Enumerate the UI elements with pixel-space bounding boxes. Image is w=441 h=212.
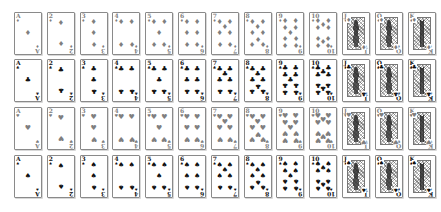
card-k-of-clubs[interactable]: K♣K♣♣♣ [408,59,436,102]
card-9-of-spades[interactable]: 9♠9♠♠♠♠♠♠♠♠♠♠ [276,155,304,198]
card-8-of-clubs[interactable]: 8♣8♣♣♣♣♣♣♣♣♣ [244,59,272,102]
card-9-of-diamonds[interactable]: 9♦9♦♦♦♦♦♦♦♦♦♦ [276,12,304,55]
card-3-of-spades[interactable]: 3♠3♠♠♠♠ [80,155,108,198]
card-a-of-hearts[interactable]: A♥A♥♥ [14,107,42,150]
clubs-pip-icon: ♣ [226,87,234,94]
diamonds-pip-icon: ♦ [183,40,191,47]
card-5-of-hearts[interactable]: 5♥5♥♥♥♥♥♥ [145,107,173,150]
card-8-of-spades[interactable]: 8♠8♠♠♠♠♠♠♠♠♠ [244,155,272,198]
card-7-of-diamonds[interactable]: 7♦7♦♦♦♦♦♦♦♦ [211,12,239,55]
card-8-of-diamonds[interactable]: 8♦8♦♦♦♦♦♦♦♦♦ [244,12,272,55]
card-j-of-clubs[interactable]: J♣J♣♣♣ [342,59,370,102]
card-2-of-spades[interactable]: 2♠2♠♠♠ [47,155,75,198]
court-figure [416,67,428,94]
card-10-of-hearts[interactable]: 10♥10♥♥♥♥♥♥♥♥♥♥♥ [309,107,337,150]
spades-pip-icon: ♠ [160,162,168,169]
card-2-of-clubs[interactable]: 2♣2♣♣♣ [47,59,75,102]
card-6-of-hearts[interactable]: 6♥6♥♥♥♥♥♥♥ [178,107,206,150]
card-6-of-clubs[interactable]: 6♣6♣♣♣♣♣♣♣ [178,59,206,102]
spades-pip-icon: ♠ [160,183,168,190]
card-3-of-diamonds[interactable]: 3♦3♦♦♦♦ [80,12,108,55]
rank-label: 7 [233,95,237,102]
diamonds-pip-icon: ♦ [117,40,125,47]
card-3-of-clubs[interactable]: 3♣3♣♣♣♣ [80,59,108,102]
card-7-of-hearts[interactable]: 7♥7♥♥♥♥♥♥♥♥ [211,107,239,150]
card-a-of-clubs[interactable]: A♣A♣♣ [14,59,42,102]
card-index-top: 2♦ [49,13,53,23]
card-10-of-diamonds[interactable]: 10♦10♦♦♦♦♦♦♦♦♦♦♦ [309,12,337,55]
card-8-of-hearts[interactable]: 8♥8♥♥♥♥♥♥♥♥♥ [244,107,272,150]
card-k-of-hearts[interactable]: K♥K♥♥♥ [408,107,436,150]
rank-label: 3 [101,191,105,198]
card-k-of-spades[interactable]: K♠K♠♠♠ [408,155,436,198]
diamonds-pip-icon: ♦ [150,19,158,26]
card-2-of-diamonds[interactable]: 2♦2♦♦♦ [47,12,75,55]
card-5-of-spades[interactable]: 5♠5♠♠♠♠♠♠ [145,155,173,198]
clubs-pip-icon: ♣ [216,77,224,84]
court-figure [350,163,362,190]
hearts-pip-icon: ♥ [117,135,125,142]
rank-label: 7 [233,48,237,55]
card-a-of-diamonds[interactable]: A♦A♦♦ [14,12,42,55]
rank-label: 4 [134,48,138,55]
card-q-of-spades[interactable]: Q♠Q♠♠♠ [375,155,403,198]
card-j-of-spades[interactable]: J♠J♠♠♠ [342,155,370,198]
card-7-of-clubs[interactable]: 7♣7♣♣♣♣♣♣♣♣ [211,59,239,102]
card-k-of-diamonds[interactable]: K♦K♦♦♦ [408,12,436,55]
hearts-pip-icon: ♥ [292,129,300,136]
spades-pip-icon: ♠ [128,162,136,169]
card-index-bottom: A♣ [35,91,40,101]
clubs-icon: ♣ [412,64,417,70]
diamonds-pip-icon: ♦ [90,30,98,37]
court-figure [350,115,362,142]
card-5-of-diamonds[interactable]: 5♦5♦♦♦♦♦♦ [145,12,173,55]
card-index-top: 3♠ [82,156,86,166]
spades-pip-icon: ♠ [57,163,65,170]
card-3-of-hearts[interactable]: 3♥3♥♥♥♥ [80,107,108,150]
clubs-icon: ♣ [82,66,86,70]
hearts-pip-icon: ♥ [128,114,136,121]
card-9-of-clubs[interactable]: 9♣9♣♣♣♣♣♣♣♣♣♣ [276,59,304,102]
card-7-of-spades[interactable]: 7♠7♠♠♠♠♠♠♠♠ [211,155,239,198]
card-9-of-hearts[interactable]: 9♥9♥♥♥♥♥♥♥♥♥♥ [276,107,304,150]
card-10-of-clubs[interactable]: 10♣10♣♣♣♣♣♣♣♣♣♣♣ [309,59,337,102]
hearts-pip-icon: ♥ [117,114,125,121]
card-q-of-hearts[interactable]: Q♥Q♥♥♥ [375,107,403,150]
card-6-of-diamonds[interactable]: 6♦6♦♦♦♦♦♦♦ [178,12,206,55]
card-index-top: 3♣ [82,60,86,70]
card-4-of-hearts[interactable]: 4♥4♥♥♥♥♥ [112,107,140,150]
rank-label: A [35,143,40,150]
diamonds-pip-icon: ♦ [193,30,201,37]
card-10-of-spades[interactable]: 10♠10♠♠♠♠♠♠♠♠♠♠♠ [309,155,337,198]
spades-pip-icon: ♠ [292,177,300,184]
card-q-of-clubs[interactable]: Q♣Q♣♣♣ [375,59,403,102]
hearts-pip-icon: ♥ [160,135,168,142]
card-6-of-spades[interactable]: 6♠6♠♠♠♠♠♠♠ [178,155,206,198]
card-q-of-diamonds[interactable]: Q♦Q♦♦♦ [375,12,403,55]
card-4-of-spades[interactable]: 4♠4♠♠♠♠♠ [112,155,140,198]
hearts-pip-icon: ♥ [160,114,168,121]
clubs-pip-icon: ♣ [155,77,163,84]
hearts-pip-icon: ♥ [248,135,256,142]
spades-pip-icon: ♠ [193,162,201,169]
diamonds-pip-icon: ♦ [259,40,267,47]
card-j-of-hearts[interactable]: J♥J♥♥♥ [342,107,370,150]
hearts-pip-icon: ♥ [324,120,332,127]
diamonds-pip-icon: ♦ [193,19,201,26]
card-2-of-hearts[interactable]: 2♥2♥♥♥ [47,107,75,150]
spades-pip-icon: ♠ [314,168,322,175]
spades-pip-icon: ♠ [314,184,322,191]
card-index-bottom: 2♣ [69,91,73,101]
clubs-pip-icon: ♣ [183,87,191,94]
clubs-pip-icon: ♣ [150,66,158,73]
hearts-pip-icon: ♥ [150,135,158,142]
card-4-of-clubs[interactable]: 4♣4♣♣♣♣♣ [112,59,140,102]
hearts-pip-icon: ♥ [128,135,136,142]
card-j-of-diamonds[interactable]: J♦J♦♦♦ [342,12,370,55]
card-a-of-spades[interactable]: A♠A♠♠ [14,155,42,198]
card-4-of-diamonds[interactable]: 4♦4♦♦♦♦♦ [112,12,140,55]
spades-pip-icon: ♠ [193,173,201,180]
hearts-pip-icon: ♥ [259,135,267,142]
diamonds-pip-icon: ♦ [281,41,289,48]
card-5-of-clubs[interactable]: 5♣5♣♣♣♣♣♣ [145,59,173,102]
